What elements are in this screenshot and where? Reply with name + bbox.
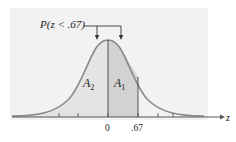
normal-curve-graphic bbox=[0, 0, 236, 142]
region-a2-subscript: 2 bbox=[90, 83, 94, 92]
tick-label-067: .67 bbox=[131, 123, 143, 133]
region-a2-label: A2 bbox=[83, 76, 94, 92]
region-a1-subscript: 1 bbox=[121, 83, 125, 92]
normal-distribution-diagram: P(z < .67) A2 A1 0 .67 z bbox=[0, 0, 236, 142]
region-a1-label: A1 bbox=[114, 76, 125, 92]
axis-variable-label: z bbox=[226, 112, 230, 123]
tick-label-0: 0 bbox=[105, 123, 110, 133]
probability-label: P(z < .67) bbox=[40, 18, 85, 30]
axis-arrow-icon bbox=[220, 115, 225, 120]
